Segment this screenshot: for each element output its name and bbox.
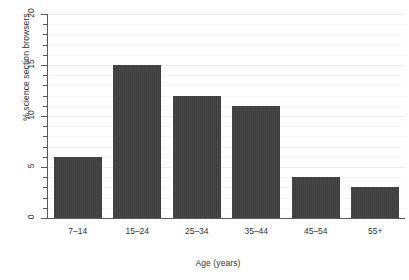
y-tick-minor: [43, 208, 47, 209]
y-tick-major: [41, 218, 47, 219]
y-tick-minor: [43, 177, 47, 178]
y-tick-major: [41, 65, 47, 66]
y-tick-minor: [43, 75, 47, 76]
bar: [292, 177, 340, 218]
y-axis-title: % science section browsers: [21, 0, 31, 147]
x-tick-label: 35–44: [227, 226, 287, 236]
x-axis-line: [48, 218, 405, 219]
bar: [232, 106, 280, 218]
x-axis-title: Age (years): [48, 258, 388, 268]
y-tick-label: 10: [24, 110, 38, 120]
plot-area: [48, 14, 405, 218]
y-tick-minor: [43, 34, 47, 35]
bar-chart: % science section browsers 05101520 7–14…: [0, 0, 409, 280]
y-tick-label: 20: [24, 8, 38, 18]
y-tick-label-text: 15: [26, 59, 36, 68]
y-tick-major: [41, 116, 47, 117]
y-tick-label: 5: [24, 161, 38, 171]
y-tick-minor: [43, 157, 47, 158]
y-tick-label: 0: [24, 212, 38, 222]
y-tick-label-text: 0: [26, 215, 36, 220]
y-tick-minor: [43, 187, 47, 188]
y-axis-line: [47, 14, 48, 219]
y-tick-label-text: 10: [26, 110, 36, 119]
y-tick-minor: [43, 24, 47, 25]
x-tick-label: 7–14: [48, 226, 108, 236]
y-tick-major: [41, 167, 47, 168]
bar: [113, 65, 161, 218]
y-tick-label-text: 20: [26, 8, 36, 17]
bars-group: [48, 14, 405, 218]
bar: [351, 187, 399, 218]
y-tick-major: [41, 14, 47, 15]
y-tick-minor: [43, 85, 47, 86]
bar: [173, 96, 221, 218]
x-tick-label: 55+: [346, 226, 406, 236]
y-tick-minor: [43, 147, 47, 148]
x-tick-label: 15–24: [108, 226, 168, 236]
x-tick-label: 25–34: [167, 226, 227, 236]
y-tick-minor: [43, 136, 47, 137]
y-tick-minor: [43, 106, 47, 107]
y-tick-minor: [43, 55, 47, 56]
y-tick-minor: [43, 96, 47, 97]
y-tick-minor: [43, 126, 47, 127]
bar: [54, 157, 102, 218]
y-tick-label-text: 5: [26, 164, 36, 169]
x-tick-label: 45–54: [286, 226, 346, 236]
y-tick-label: 15: [24, 59, 38, 69]
y-tick-minor: [43, 45, 47, 46]
y-tick-minor: [43, 198, 47, 199]
